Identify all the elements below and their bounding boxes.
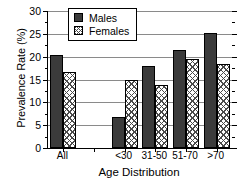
y-axis-tick-label: 15 (29, 74, 41, 86)
bar-males (142, 66, 155, 148)
y-axis-tick-right (232, 125, 237, 126)
legend-item-males: Males (74, 11, 129, 24)
x-axis-tick-label: >70 (207, 150, 224, 161)
x-axis-tick (94, 148, 95, 152)
y-axis-title: Prevalence Rate (%) (15, 8, 27, 148)
y-axis-tick-label: 25 (29, 28, 41, 40)
y-axis-tick (43, 148, 48, 149)
y-axis-tick-right (232, 148, 237, 149)
y-axis-tick-label: 20 (29, 51, 41, 63)
legend-item-females: Females (74, 24, 129, 37)
bar-females (186, 59, 199, 148)
y-axis-minor-tick-right (232, 114, 235, 115)
bar-females (63, 72, 76, 148)
y-axis-minor-tick-right (232, 91, 235, 92)
y-axis-tick-right (232, 80, 237, 81)
x-axis-tick-label: 31-50 (142, 150, 168, 161)
y-axis-minor-tick-right (232, 45, 235, 46)
bar-group (203, 11, 231, 148)
chart-legend: Males Females (68, 8, 137, 41)
legend-label-males: Males (89, 12, 117, 24)
legend-label-females: Females (89, 25, 129, 37)
bar-males (50, 55, 63, 148)
bar-females (125, 80, 138, 149)
legend-swatch-males-icon (74, 13, 83, 22)
y-axis-minor-tick-right (232, 22, 235, 23)
y-axis-tick-right (232, 11, 237, 12)
y-axis-tick-label: 5 (35, 119, 41, 131)
x-axis-tick-label: <30 (115, 150, 132, 161)
y-axis-tick-label: 0 (35, 142, 41, 154)
bar-males (112, 117, 125, 148)
bar-males (204, 33, 217, 148)
bar-females (155, 85, 168, 148)
y-axis-tick-right (232, 102, 237, 103)
y-axis-tick-label: 10 (29, 96, 41, 108)
bar-females (217, 64, 230, 148)
x-axis-title: Age Distribution (47, 166, 231, 178)
y-axis-tick-label: 30 (29, 5, 41, 17)
y-axis-minor-tick-right (232, 137, 235, 138)
x-axis-tick-label: All (57, 150, 68, 161)
y-axis-tick-right (232, 34, 237, 35)
x-axis-tick-label: 51-70 (172, 150, 198, 161)
bar-group (141, 11, 169, 148)
y-axis-minor-tick-right (232, 68, 235, 69)
prevalence-rate-bar-chart: Prevalence Rate (%) 051015202530 All<303… (0, 0, 239, 189)
bar-males (173, 50, 186, 148)
bar-group (172, 11, 200, 148)
legend-swatch-females-icon (74, 26, 83, 35)
y-axis-tick-right (232, 57, 237, 58)
